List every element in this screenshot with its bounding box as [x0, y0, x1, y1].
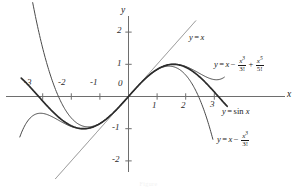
x-tick-label-1: 1: [152, 101, 157, 110]
x-tick-label--3: -3: [24, 78, 32, 87]
x-tick-label--1: -1: [90, 78, 98, 87]
y-tick-label--1: -1: [112, 123, 120, 132]
ann-eq: =: [218, 59, 226, 69]
axes-group: [6, 16, 285, 172]
ann-minus: −: [232, 134, 240, 144]
y-tick-label-2: 2: [117, 26, 122, 35]
x-tick-label-3: 3: [210, 100, 215, 109]
fraction-x-fifth-over-5-factorial: x5 5!: [256, 56, 264, 74]
annotation-taylor-degree-5: y=x− x3 3! + x5 5!: [214, 56, 265, 74]
annotation-y-equals-x: y=x: [189, 33, 204, 42]
ann-eq: =: [221, 134, 229, 144]
annotation-sine: y=sin x: [222, 107, 249, 116]
numerator-exponent: 5: [260, 55, 263, 61]
origin-label: 0: [118, 79, 123, 88]
y-axis-label: y: [121, 6, 125, 16]
x-tick-label-2: 2: [181, 101, 186, 110]
fraction-denominator: 5!: [256, 65, 264, 73]
ann-minus: −: [229, 59, 237, 69]
fraction-numerator: x3: [238, 56, 246, 65]
fraction-x-cubed-over-3-factorial: x3 3!: [238, 56, 246, 74]
fraction-x-cubed-over-3-factorial: x3 3!: [241, 131, 249, 149]
ann-sin: sin: [234, 106, 244, 116]
taylor-series-figure: y x -3 -2 -1 0 1 2 3 2 1 -1 -2 y=x y=x− …: [0, 0, 297, 188]
annotation-taylor-degree-3: y=x− x3 3!: [217, 131, 250, 149]
numerator-exponent: 3: [242, 55, 245, 61]
fraction-numerator: x5: [256, 56, 264, 65]
x-tick-label--2: -2: [58, 78, 66, 87]
ann-rhs: x: [201, 32, 205, 42]
figure-caption: Figure: [0, 181, 297, 187]
ann-eq: =: [193, 32, 201, 42]
ann-plus: +: [247, 59, 255, 69]
x-axis-label: x: [287, 90, 291, 100]
fraction-denominator: 3!: [241, 140, 249, 148]
numerator-exponent: 3: [245, 130, 248, 136]
y-tick-label-1: 1: [117, 59, 122, 68]
fraction-denominator: 3!: [238, 65, 246, 73]
y-tick-label--2: -2: [112, 155, 120, 164]
ann-eq: =: [226, 106, 234, 116]
fraction-numerator: x3: [241, 131, 249, 140]
ann-arg: x: [246, 106, 250, 116]
plot-canvas: [0, 0, 297, 188]
curves-group: [20, 3, 227, 179]
